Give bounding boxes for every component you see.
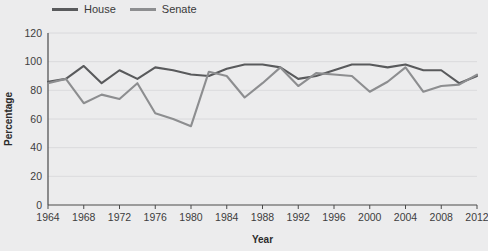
y-tick-label: 120 — [24, 27, 42, 39]
x-tick-label: 1976 — [144, 211, 168, 223]
x-tick-label: 2000 — [358, 211, 382, 223]
plot-area: 020406080100120 196419681972197619801984… — [0, 0, 488, 251]
x-tick-label: 1980 — [179, 211, 203, 223]
x-axis-title: Year — [252, 234, 273, 245]
x-tick-label: 1968 — [72, 211, 96, 223]
y-tick-label: 20 — [30, 170, 42, 182]
x-tick-label: 2012 — [465, 211, 488, 223]
data-series — [48, 65, 477, 127]
y-tick-label: 60 — [30, 113, 42, 125]
gridlines — [48, 33, 477, 176]
x-tick-label: 2004 — [394, 211, 418, 223]
incumbent-reelection-line-chart: House Senate 020406080100120 19641968197… — [0, 0, 488, 251]
y-tick-label: 80 — [30, 84, 42, 96]
y-tick-label: 40 — [30, 141, 42, 153]
y-axis-title: Percentage — [3, 92, 14, 146]
x-tick-label: 1992 — [287, 211, 311, 223]
y-tick-label: 0 — [36, 199, 42, 211]
y-tick-label: 100 — [24, 55, 42, 67]
x-axis-ticks: 1964196819721976198019841988199219962000… — [36, 205, 488, 223]
x-tick-label: 1972 — [108, 211, 132, 223]
x-tick-label: 1964 — [36, 211, 60, 223]
x-tick-label: 1988 — [251, 211, 275, 223]
x-tick-label: 1984 — [215, 211, 239, 223]
x-tick-label: 1996 — [322, 211, 346, 223]
x-tick-label: 2008 — [430, 211, 454, 223]
y-axis-ticks: 020406080100120 — [24, 27, 42, 211]
series-line-house — [48, 65, 477, 84]
